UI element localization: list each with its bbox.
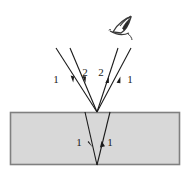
eye-icon — [109, 16, 132, 40]
ray-label-1-inside-right: 1 — [107, 136, 113, 148]
ray-reflected-right-outer — [97, 48, 131, 112]
optics-diagram-figure: 1 2 2 1 1 1 — [0, 0, 191, 178]
optics-diagram-canvas: 1 2 2 1 1 1 — [0, 0, 191, 178]
eye-tail — [127, 33, 132, 40]
ray-label-1-inside-left: 1 — [76, 136, 82, 148]
arrowhead-icon — [117, 76, 121, 83]
ray-label-2-top-right: 2 — [98, 66, 104, 78]
ray-label-2-top-left: 2 — [82, 66, 88, 78]
ray-line — [97, 48, 131, 112]
ray-incident-left-inner — [70, 48, 97, 112]
eye-corner-tick — [109, 29, 111, 30]
arrowhead-icon — [105, 76, 109, 83]
ray-line — [70, 48, 97, 112]
arrowhead-icon — [71, 76, 75, 83]
ray-reflected-right-inner — [97, 48, 118, 112]
eye-outline — [113, 17, 131, 33]
ray-incident-left-outer — [56, 48, 97, 112]
ray-line — [56, 48, 97, 112]
ray-label-1-top-left: 1 — [53, 73, 59, 85]
ray-label-1-top-right: 1 — [127, 73, 133, 85]
